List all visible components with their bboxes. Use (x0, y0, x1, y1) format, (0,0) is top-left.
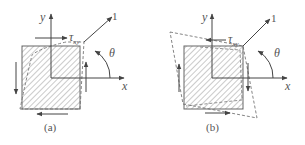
shear-stress-label: τxy (69, 30, 80, 46)
direction-1-label: 1 (112, 10, 118, 22)
caption-a: (a) (44, 121, 57, 134)
direction-1-arrow (243, 19, 270, 46)
direction-1-label: 1 (271, 12, 277, 24)
x-axis-label: x (121, 79, 128, 93)
direction-1-arrow (84, 17, 112, 42)
x-axis-label: x (284, 79, 291, 93)
panel-a: y x 1 θ τxy (a) (16, 10, 128, 134)
y-axis-label: y (201, 10, 208, 24)
shear-diagram-figure: y x 1 θ τxy (a) y x 1 θ (0, 0, 305, 145)
y-axis-label: y (39, 10, 46, 24)
shear-stress-label: τxy (228, 32, 239, 48)
theta-arc (258, 51, 273, 78)
theta-arc (95, 51, 110, 78)
caption-b: (b) (206, 121, 219, 134)
panel-b: y x 1 θ τxy (b) (170, 10, 291, 134)
theta-label: θ (274, 46, 280, 60)
theta-label: θ (109, 46, 115, 60)
